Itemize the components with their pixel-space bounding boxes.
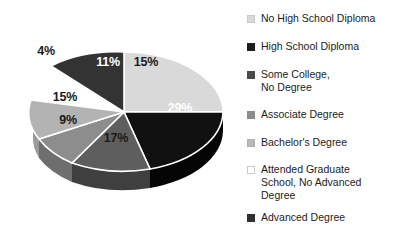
legend-label: No High School Diploma bbox=[261, 12, 375, 25]
legend-label: Bachelor's Degree bbox=[261, 136, 347, 149]
legend-item-attended-graduate-school[interactable]: Attended Graduate School, No Advanced De… bbox=[247, 163, 361, 202]
pie-chart-area: 15% 29% 17% 9% 15% 4% 11% bbox=[0, 0, 244, 241]
legend-item-high-school-diploma[interactable]: High School Diploma bbox=[247, 40, 359, 53]
slice-no-high-school-diploma bbox=[124, 52, 223, 112]
legend-item-associate-degree[interactable]: Associate Degree bbox=[247, 108, 344, 121]
pie-chart-figure: 15% 29% 17% 9% 15% 4% 11% No High School… bbox=[0, 0, 403, 241]
legend-item-some-college-no-degree[interactable]: Some College, No Degree bbox=[247, 68, 330, 94]
legend-label: Some College, No Degree bbox=[261, 68, 330, 94]
legend-swatch-icon bbox=[247, 166, 255, 174]
legend-item-advanced-degree[interactable]: Advanced Degree bbox=[247, 211, 345, 224]
legend-item-bachelors-degree[interactable]: Bachelor's Degree bbox=[247, 136, 347, 149]
pie-chart-svg bbox=[0, 0, 244, 241]
legend-swatch-icon bbox=[247, 43, 255, 51]
legend-swatch-icon bbox=[247, 139, 255, 147]
pie-top-faces bbox=[29, 52, 223, 171]
legend-swatch-icon bbox=[247, 111, 255, 119]
legend-label: Attended Graduate School, No Advanced De… bbox=[261, 163, 361, 202]
legend-item-no-high-school-diploma[interactable]: No High School Diploma bbox=[247, 12, 375, 25]
legend-label: Advanced Degree bbox=[261, 211, 345, 224]
legend-label: Associate Degree bbox=[261, 108, 344, 121]
chart-legend: No High School Diploma High School Diplo… bbox=[244, 0, 403, 241]
legend-label: High School Diploma bbox=[261, 40, 359, 53]
legend-swatch-icon bbox=[247, 71, 255, 79]
legend-swatch-icon bbox=[247, 15, 255, 23]
legend-swatch-icon bbox=[247, 214, 255, 222]
